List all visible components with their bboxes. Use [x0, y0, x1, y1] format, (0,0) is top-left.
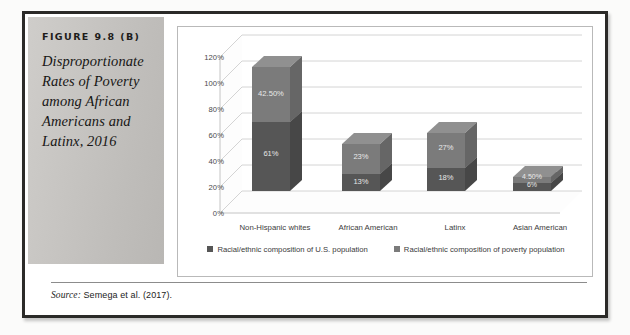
figure-title: Disproportionate Rates of Poverty among … [42, 51, 154, 151]
bar-segment-population-1[interactable] [252, 122, 290, 191]
y-tick-100: 100% [190, 79, 224, 88]
y-tick-120: 120% [190, 53, 224, 62]
y-tick-40: 40% [190, 157, 224, 166]
chart-floor [220, 191, 582, 213]
bar-segment-population-2[interactable] [342, 174, 380, 191]
x-tick-non-hispanic-whites: Non-Hispanic whites [220, 223, 330, 232]
legend-swatch-icon-population [207, 246, 213, 252]
legend-item-poverty-population[interactable]: Racial/ethnic composition of poverty pop… [394, 245, 565, 254]
figure-number: FIGURE 9.8 (B) [42, 31, 154, 42]
figure-caption-panel: FIGURE 9.8 (B) Disproportionate Rates of… [28, 17, 164, 264]
legend-swatch-icon-poverty [394, 246, 400, 252]
bar-group-latinx[interactable] [427, 122, 477, 191]
legend-item-us-population[interactable]: Racial/ethnic composition of U.S. popula… [207, 245, 367, 254]
bar-segment-poverty-4[interactable] [513, 177, 551, 183]
source-text: Semega et al. (2017). [84, 290, 173, 300]
page-background: FIGURE 9.8 (B) Disproportionate Rates of… [0, 0, 630, 335]
bar-segment-poverty-2[interactable] [342, 144, 380, 174]
chart-svg [178, 27, 594, 232]
bar-segment-poverty-1-side [290, 56, 302, 122]
bar-group-african-american[interactable] [342, 133, 392, 191]
y-tick-0: 0% [190, 209, 224, 218]
chart-x-axis: Non-Hispanic whites African American Lat… [178, 223, 594, 239]
x-tick-asian-american: Asian American [490, 223, 590, 232]
chart-plot-area: 120% 100% 80% 60% 40% 20% 0% 42.50% 61% … [178, 27, 594, 232]
legend-label-us-population: Racial/ethnic composition of U.S. popula… [217, 245, 367, 254]
bar-segment-poverty-3[interactable] [427, 133, 465, 168]
y-tick-60: 60% [190, 131, 224, 140]
x-tick-latinx: Latinx [410, 223, 500, 232]
legend-label-poverty-population: Racial/ethnic composition of poverty pop… [404, 245, 565, 254]
source-divider [51, 282, 587, 283]
bar-segment-population-4[interactable] [513, 183, 551, 191]
chart-y-axis: 120% 100% 80% 60% 40% 20% 0% [184, 27, 224, 232]
figure-frame: FIGURE 9.8 (B) Disproportionate Rates of… [22, 11, 608, 318]
x-tick-african-american: African American [318, 223, 418, 232]
source-line: Source: Semega et al. (2017). [51, 290, 172, 300]
y-tick-80: 80% [190, 105, 224, 114]
bar-segment-population-1-side [290, 111, 302, 191]
bar-group-non-hispanic-whites[interactable] [252, 56, 302, 191]
chart-container: 120% 100% 80% 60% 40% 20% 0% 42.50% 61% … [177, 26, 593, 277]
source-label: Source: [51, 290, 81, 300]
bar-segment-population-3[interactable] [427, 168, 465, 191]
y-tick-20: 20% [190, 183, 224, 192]
bar-segment-poverty-1[interactable] [252, 67, 290, 122]
chart-legend: Racial/ethnic composition of U.S. popula… [178, 239, 594, 259]
